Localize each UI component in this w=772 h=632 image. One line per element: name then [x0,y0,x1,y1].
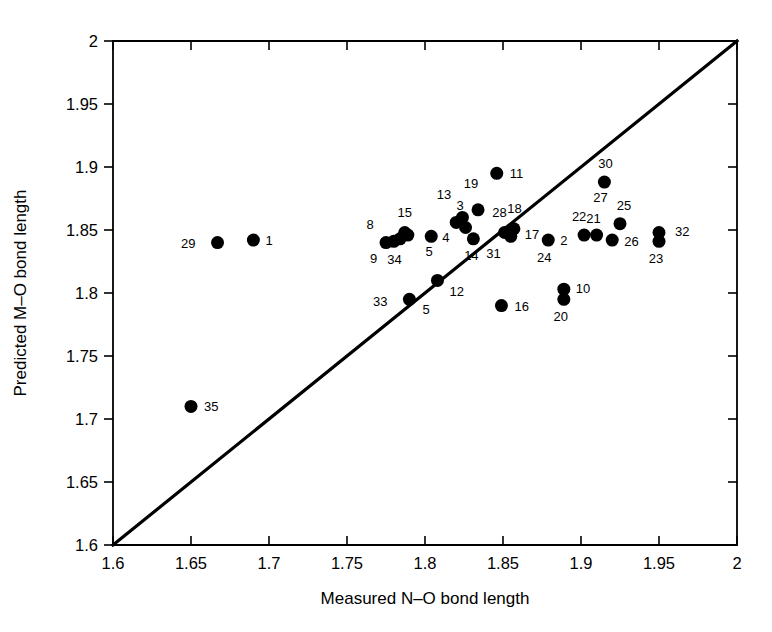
x-axis-title: Measured N–O bond length [321,589,530,608]
data-point-label: 19 [464,176,478,191]
x-tick-label: 1.95 [643,554,675,572]
data-point-label: 17 [525,227,539,242]
data-point-marker [598,176,611,189]
data-point-label: 26 [624,234,638,249]
data-point-label: 29 [181,236,195,251]
data-point-label: 28 [492,205,506,220]
data-point-label: 32 [675,224,689,239]
data-point-label: 4 [442,230,449,245]
data-point-label: 30 [598,156,612,171]
data-point-label: 25 [617,198,631,213]
data-point-label: 2 [560,233,567,248]
data-point-marker [542,234,555,247]
data-point-marker [472,203,485,216]
data-point-marker [467,232,480,245]
y-tick-label: 1.65 [66,473,98,491]
data-point-label: 13 [437,187,451,202]
data-point-label: 18 [507,201,521,216]
data-point-label: 27 [593,190,607,205]
data-point-label: 11 [510,166,524,181]
x-tick-label: 1.8 [414,554,437,572]
data-point-label: 1 [265,233,272,248]
x-tick-label: 1.85 [487,554,519,572]
data-point-marker [185,400,198,413]
x-tick-label: 1.6 [102,554,125,572]
data-point-label: 21 [586,211,600,226]
data-point-label: 10 [576,281,590,296]
y-tick-label: 2 [89,32,98,50]
data-point-label: 16 [514,299,528,314]
data-point-marker [431,274,444,287]
data-point-label: 20 [554,309,568,324]
data-point-label: 34 [387,252,401,267]
data-point-marker [495,299,508,312]
data-point-marker [578,229,591,242]
data-point-label: 23 [649,251,663,266]
data-point-marker [425,230,438,243]
data-point-label: 3 [456,198,463,213]
data-point-label: 8 [366,217,373,232]
data-point-marker [507,222,520,235]
data-point-marker [653,235,666,248]
data-point-marker [557,293,570,306]
data-point-marker [247,234,260,247]
x-tick-label: 1.9 [570,554,593,572]
y-tick-label: 1.9 [75,158,98,176]
data-point-label: 31 [486,246,500,261]
plot-canvas: 1.61.651.71.751.81.851.91.952 1.61.651.7… [0,0,772,632]
x-tick-label: 1.7 [258,554,281,572]
data-point-label: 22 [572,209,586,224]
data-point-marker [459,221,472,234]
data-point-label: 12 [449,284,463,299]
data-point-marker [490,167,503,180]
identity-reference-line [113,41,737,545]
y-tick-label: 1.75 [66,347,98,365]
data-point-label: 14 [464,248,478,263]
y-tick-label: 1.6 [75,536,98,554]
x-tick-label: 1.65 [175,554,207,572]
y-axis-title: Predicted M–O bond length [11,190,30,397]
y-tick-label: 1.7 [75,410,98,428]
data-point-marker [403,293,416,306]
data-point-label: 15 [398,205,412,220]
y-tick-labels: 1.61.651.71.751.81.851.91.952 [66,32,98,554]
data-point-label: 24 [537,250,551,265]
data-point-label: 35 [204,399,218,414]
data-point-label: 5 [422,302,429,317]
data-point-marker [590,229,603,242]
y-tick-label: 1.8 [75,284,98,302]
x-tick-label: 1.75 [331,554,363,572]
x-tick-label: 2 [732,554,741,572]
scatter-plot-figure: 1.61.651.71.751.81.851.91.952 1.61.651.7… [0,0,772,632]
identity-line [113,41,737,545]
data-point-marker [211,236,224,249]
data-point-marker [401,229,414,242]
data-point-marker [614,217,627,230]
data-point-label: 9 [370,251,377,266]
data-point-label: 5 [426,244,433,259]
data-point-marker [606,234,619,247]
y-tick-label: 1.95 [66,95,98,113]
data-point-label: 33 [373,294,387,309]
y-tick-label: 1.85 [66,221,98,239]
x-tick-labels: 1.61.651.71.751.81.851.91.952 [102,554,742,572]
